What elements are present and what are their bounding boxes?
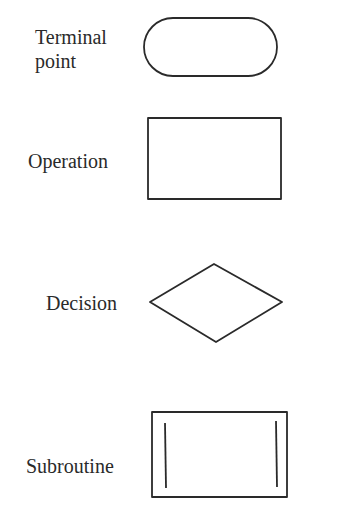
decision-shape	[150, 264, 282, 342]
subroutine-inner-right-line	[276, 421, 277, 487]
subroutine-label: Subroutine	[26, 455, 114, 477]
flowchart-symbols-diagram: Terminal point Operation Decision Subrou…	[0, 0, 339, 524]
symbol-decision: Decision	[46, 264, 282, 342]
terminal-label-line-1: Terminal	[35, 26, 107, 48]
terminal-label-line-2: point	[35, 50, 77, 73]
subroutine-inner-left-line	[165, 423, 166, 488]
operation-shape	[148, 118, 281, 199]
terminal-shape	[144, 18, 277, 76]
decision-label: Decision	[46, 292, 117, 314]
operation-label: Operation	[28, 150, 108, 173]
subroutine-shape	[152, 412, 287, 497]
symbol-terminal-point: Terminal point	[35, 18, 277, 76]
symbol-operation: Operation	[28, 118, 281, 199]
symbol-subroutine: Subroutine	[26, 412, 287, 497]
